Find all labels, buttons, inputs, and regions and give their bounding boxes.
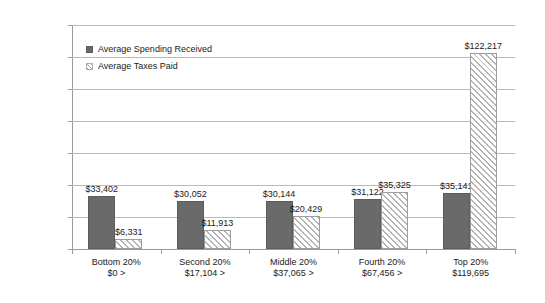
chart-legend: Average Spending Received Average Taxes …	[86, 44, 212, 78]
x-tick-mark	[515, 249, 516, 254]
bar-taxes-1	[115, 239, 142, 249]
x-tick-mark	[161, 249, 162, 254]
bar-spending-1	[88, 196, 115, 249]
gridline-0	[72, 249, 515, 250]
bar-value-label: $33,402	[76, 184, 127, 194]
legend-label-spending: Average Spending Received	[98, 44, 212, 54]
x-tick-mark	[338, 249, 339, 254]
legend-item-spending: Average Spending Received	[86, 44, 212, 54]
x-tick-mark	[72, 249, 73, 254]
legend-item-taxes: Average Taxes Paid	[86, 61, 212, 71]
gridline-60000	[72, 153, 515, 154]
category-threshold: $119,695	[411, 268, 531, 279]
bar-value-label: $122,217	[458, 41, 509, 51]
x-tick-mark	[426, 249, 427, 254]
category-name: Top 20%	[411, 257, 531, 268]
bar-spending-4	[354, 199, 381, 249]
bar-taxes-4	[381, 192, 408, 249]
gridline-80000	[72, 121, 515, 122]
gridline-140000	[72, 25, 515, 26]
x-tick-mark	[249, 249, 250, 254]
gridline-100000	[72, 89, 515, 90]
legend-label-taxes: Average Taxes Paid	[98, 61, 178, 71]
bar-value-label: $6,331	[103, 227, 154, 237]
spending-swatch-icon	[86, 46, 93, 53]
bar-value-label: $11,913	[192, 218, 243, 228]
bar-taxes-5	[470, 53, 497, 249]
category-label-5: Top 20%$119,695	[411, 257, 531, 279]
bar-value-label: $20,429	[281, 204, 332, 214]
bar-value-label: $30,052	[165, 189, 216, 199]
bar-spending-5	[443, 193, 470, 249]
bar-value-label: $35,325	[369, 180, 420, 190]
bar-taxes-3	[293, 216, 320, 249]
bar-value-label: $30,144	[254, 189, 305, 199]
taxes-swatch-icon	[86, 63, 93, 70]
bar-chart: $0$20,000$40,000$60,000$80,000$100,000$1…	[0, 0, 545, 303]
bar-taxes-2	[204, 230, 231, 249]
